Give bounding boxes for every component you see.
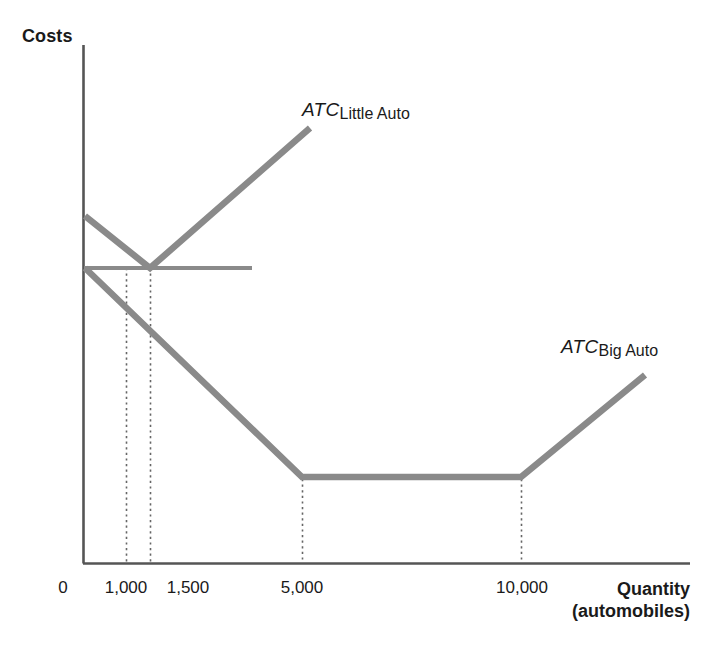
y-axis-label: Costs	[22, 26, 73, 47]
x-tick-0: 0	[48, 578, 78, 598]
x-tick-10000: 10,000	[474, 578, 570, 598]
atc-big-auto-label: ATCBig Auto	[561, 336, 658, 358]
x-tick-1500: 1,500	[150, 578, 226, 598]
x-axis-label-line1: Quantity	[556, 578, 690, 600]
atc-little-auto-curve	[85, 128, 310, 268]
atc-big-auto-label-main: ATC	[561, 336, 599, 357]
chart-canvas	[0, 0, 709, 648]
atc-little-auto-label-main: ATC	[302, 99, 340, 120]
atc-little-auto-label-subscript: Little Auto	[340, 105, 410, 122]
atc-big-auto-curve	[85, 268, 645, 477]
x-tick-5000: 5,000	[264, 578, 340, 598]
atc-big-auto-label-subscript: Big Auto	[599, 342, 659, 359]
atc-little-auto-label: ATCLittle Auto	[302, 99, 410, 121]
x-axis-label-line2: (automobiles)	[556, 600, 690, 622]
x-axis-label: Quantity (automobiles)	[556, 578, 690, 622]
cost-curve-figure: Costs Quantity (automobiles) 0 1,000 1,5…	[0, 0, 709, 648]
